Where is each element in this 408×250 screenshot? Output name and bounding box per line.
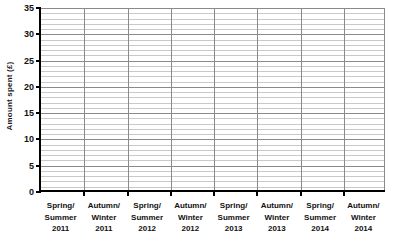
gridline-minor-horizontal [41,118,385,119]
y-axis-tick-mark [36,7,41,9]
x-axis-tick-label-line: Spring/ [45,200,77,212]
gridline-minor-horizontal [41,92,385,93]
x-axis-tick-label-line: Spring/ [218,200,250,212]
gridline-major-horizontal [41,113,385,114]
x-axis-tick-label-line: Autumn/ [88,200,120,212]
y-axis-tick-mark [36,86,41,88]
gridline-vertical [301,8,302,190]
x-axis-tick-label-line: Autumn/ [174,200,206,212]
gridline-minor-horizontal [41,50,385,51]
x-axis-tick-label-group: Spring/Summer2011Autumn/Winter2011Spring… [39,200,385,246]
gridline-minor-horizontal [41,66,385,67]
x-axis-tick-mark [300,190,302,196]
gridline-minor-horizontal [41,71,385,72]
y-axis-tick-mark [36,112,41,114]
x-axis-tick-label-line: Summer [304,212,336,224]
y-axis-tick-mark [36,165,41,167]
plot-area [39,8,385,192]
y-axis-tick-mark [36,33,41,35]
y-axis-tick-label: 15 [24,109,34,118]
x-axis-tick-mark [343,190,345,196]
gridline-vertical [214,8,215,190]
y-axis-tick-label: 10 [24,135,34,144]
plot-top-border [41,8,385,9]
x-axis-tick-label-line: Winter [174,212,206,224]
x-axis-tick-mark [170,190,172,196]
x-axis-tick-label-line: Winter [88,212,120,224]
x-axis-tick-label-line: 2011 [88,223,120,235]
x-axis-tick-label: Autumn/Winter2013 [261,200,293,235]
gridline-minor-horizontal [41,19,385,20]
x-axis-tick-label-line: Autumn/ [347,200,379,212]
y-axis-tick-label-group: 35302520151050 [14,8,34,192]
gridline-minor-horizontal [41,176,385,177]
gridline-major-horizontal [41,61,385,62]
x-axis-tick-label-line: Spring/ [304,200,336,212]
gridline-minor-horizontal [41,129,385,130]
gridline-major-horizontal [41,139,385,140]
y-axis-tick-label: 5 [29,161,34,170]
gridline-minor-horizontal [41,13,385,14]
gridline-minor-horizontal [41,82,385,83]
gridline-major-horizontal [41,166,385,167]
x-axis-tick-mark [256,190,258,196]
x-axis-tick-label-line: 2013 [218,223,250,235]
x-axis-tick-label-line: 2014 [304,223,336,235]
x-axis-tick-label-line: 2012 [174,223,206,235]
gridline-minor-horizontal [41,108,385,109]
y-axis-tick-label: 25 [24,56,34,65]
y-axis-tick-label: 30 [24,30,34,39]
gridline-minor-horizontal [41,124,385,125]
gridlines [41,8,385,190]
gridline-minor-horizontal [41,45,385,46]
y-axis-tick-mark [36,191,41,193]
gridline-minor-horizontal [41,181,385,182]
plot-right-border [384,8,385,190]
x-axis-tick-mark [83,190,85,196]
x-axis-tick-label-line: Winter [347,212,379,224]
y-axis-tick-label: 35 [24,4,34,13]
gridline-minor-horizontal [41,145,385,146]
gridline-minor-horizontal [41,150,385,151]
x-axis-tick-label: Spring/Summer2014 [304,200,336,235]
gridline-vertical [344,8,345,190]
gridline-minor-horizontal [41,97,385,98]
x-axis-tick-mark [213,190,215,196]
x-axis-tick-label: Autumn/Winter2014 [347,200,379,235]
gridline-minor-horizontal [41,76,385,77]
gridline-vertical [128,8,129,190]
x-axis-tick-label: Spring/Summer2011 [45,200,77,235]
gridline-minor-horizontal [41,187,385,188]
x-axis-tick-label: Spring/Summer2012 [131,200,163,235]
gridline-minor-horizontal [41,55,385,56]
x-axis-tick-label-line: Autumn/ [261,200,293,212]
x-axis-tick-label-line: Summer [131,212,163,224]
x-axis-tick-label-line: Spring/ [131,200,163,212]
gridline-minor-horizontal [41,160,385,161]
x-axis-tick-label-line: 2014 [347,223,379,235]
gridline-vertical [257,8,258,190]
x-axis-tick-label-line: Summer [45,212,77,224]
gridline-minor-horizontal [41,134,385,135]
x-axis-tick-label: Autumn/Winter2012 [174,200,206,235]
gridline-minor-horizontal [41,155,385,156]
gridline-minor-horizontal [41,40,385,41]
x-axis-tick-label: Spring/Summer2013 [218,200,250,235]
gridline-vertical [171,8,172,190]
gridline-major-horizontal [41,87,385,88]
y-axis-tick-label: 20 [24,82,34,91]
y-axis-tick-label: 0 [29,188,34,197]
x-axis-tick-label-line: 2011 [45,223,77,235]
gridline-minor-horizontal [41,24,385,25]
gridline-minor-horizontal [41,171,385,172]
y-axis-tick-mark [36,60,41,62]
gridline-minor-horizontal [41,103,385,104]
x-axis-tick-label-line: Winter [261,212,293,224]
x-axis-tick-mark [127,190,129,196]
x-axis-tick-label-line: 2013 [261,223,293,235]
gridline-major-horizontal [41,34,385,35]
y-axis-tick-mark [36,138,41,140]
x-axis-tick-label-line: Summer [218,212,250,224]
gridline-minor-horizontal [41,29,385,30]
x-axis-tick-label-line: 2012 [131,223,163,235]
